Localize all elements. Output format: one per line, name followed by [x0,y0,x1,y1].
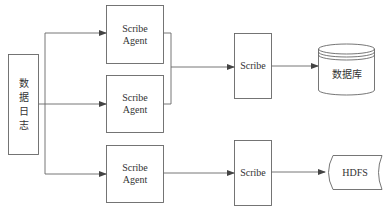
source-char: 志 [19,119,29,133]
source-char: 数 [19,77,29,91]
agent-label-line: Agent [123,35,147,47]
database-label: 数据库 [318,55,375,95]
agent-label-line: Scribe [122,23,148,35]
agent-label-line: Agent [123,104,147,116]
source-label: 数 据 日 志 [8,54,39,155]
agent-label-line: Agent [123,174,147,186]
agent-label-1: Scribe Agent [106,5,164,64]
hdfs-label: HDFS [328,155,382,190]
agent-label-line: Scribe [122,92,148,104]
agent-label-3: Scribe Agent [106,145,164,203]
scribe-label-1: Scribe [234,33,272,99]
agent-label-2: Scribe Agent [106,75,164,133]
scribe-label-2: Scribe [234,140,272,206]
agent-label-line: Scribe [122,162,148,174]
source-char: 日 [19,105,29,119]
source-char: 据 [19,91,29,105]
